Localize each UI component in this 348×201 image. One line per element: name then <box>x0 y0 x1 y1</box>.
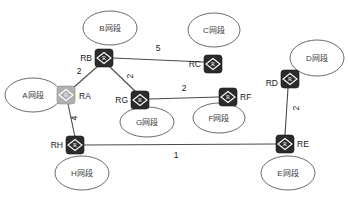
router-node-re[interactable]: R RE <box>276 135 309 153</box>
segment-label-f: F网段 <box>209 113 230 123</box>
network-topology-diagram: B网段 C网段 D网段 A网段 G网段 F网段 <box>0 0 348 201</box>
segment-node-e: E网段 <box>261 156 315 190</box>
router-label-rb: RB <box>80 53 92 63</box>
router-label-rc: RC <box>189 59 201 69</box>
router-label-rg: RG <box>115 95 128 105</box>
segment-node-f: F网段 <box>193 103 245 133</box>
router-node-rb[interactable]: R RB <box>80 49 113 67</box>
router-glyph-rf: R <box>226 94 230 100</box>
router-label-ra: RA <box>79 91 91 101</box>
segment-node-c: C网段 <box>188 13 240 47</box>
link-weight-rb-ra: 2 <box>77 66 82 76</box>
segment-node-h: H网段 <box>55 156 109 190</box>
link-layer <box>68 58 288 145</box>
router-node-rh[interactable]: R RH <box>51 136 84 154</box>
link-rh-re <box>84 144 276 145</box>
link-weight-ra-rh: 4 <box>69 115 79 120</box>
router-label-rd: RD <box>266 78 278 88</box>
router-node-rg[interactable]: R RG <box>115 91 149 109</box>
segment-label-e: E网段 <box>277 168 298 178</box>
router-glyph-rc: R <box>211 61 215 67</box>
router-label-rf: RF <box>240 92 251 102</box>
segment-label-g: G网段 <box>136 117 158 127</box>
segment-label-h: H网段 <box>71 168 93 178</box>
link-weight-rg-rf: 2 <box>182 83 187 93</box>
router-node-rd[interactable]: R RD <box>266 70 299 88</box>
router-layer: R RB R RC R RD R RA <box>51 49 309 154</box>
topology-canvas: B网段 C网段 D网段 A网段 G网段 F网段 <box>0 0 348 201</box>
segment-node-a: A网段 <box>5 78 61 112</box>
router-glyph-rd: R <box>288 76 292 82</box>
link-rg-rf <box>149 97 219 99</box>
router-glyph-rb: R <box>102 55 106 61</box>
router-label-rh: RH <box>51 140 63 150</box>
link-rd-re <box>285 88 288 135</box>
router-glyph-re: R <box>283 141 287 147</box>
router-glyph-rh: R <box>73 142 77 148</box>
segment-node-b: B网段 <box>83 11 137 45</box>
segment-label-a: A网段 <box>22 90 43 100</box>
segment-layer: B网段 C网段 D网段 A网段 G网段 F网段 <box>5 11 344 190</box>
link-rb-rg <box>110 67 136 92</box>
router-glyph-rg: R <box>138 97 142 103</box>
router-node-rf[interactable]: R RF <box>219 88 251 106</box>
link-weight-rh-re: 1 <box>174 150 179 160</box>
router-glyph-ra: R <box>64 92 68 98</box>
segment-label-d: D网段 <box>306 53 328 63</box>
link-weight-rd-re: 2 <box>291 105 301 110</box>
segment-label-c: C网段 <box>203 25 225 35</box>
router-node-ra[interactable]: R RA <box>57 86 91 104</box>
segment-node-g: G网段 <box>120 107 174 137</box>
link-weight-rb-rg: 2 <box>125 73 135 78</box>
router-node-rc[interactable]: R RC <box>189 55 222 73</box>
segment-label-b: B网段 <box>99 23 120 33</box>
link-weight-rb-rc: 5 <box>156 43 161 53</box>
router-label-re: RE <box>297 139 309 149</box>
